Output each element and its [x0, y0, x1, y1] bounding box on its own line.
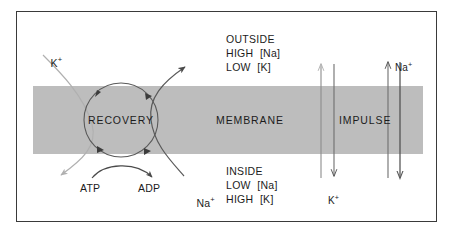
outside-heading: OUTSIDE — [226, 33, 275, 46]
sodium-ion-label-pump: Na+ — [184, 182, 215, 224]
atp-label: ATP — [80, 182, 100, 195]
recovery-label: RECOVERY — [88, 114, 154, 127]
recovery-arrowhead-right-bottom — [144, 148, 151, 155]
inside-potassium-concentration: HIGH [K] — [226, 193, 274, 206]
sodium-ion-label-impulse: Na+ — [383, 47, 412, 88]
inside-heading: INSIDE — [226, 165, 263, 178]
outside-sodium-concentration: HIGH [Na] — [226, 47, 280, 60]
membrane-label: MEMBRANE — [216, 114, 284, 127]
potassium-ion-charge-impulse: + — [335, 193, 339, 202]
adp-label: ADP — [138, 182, 160, 195]
potassium-ion-charge: + — [58, 55, 62, 64]
potassium-ion-symbol-impulse: K — [328, 195, 335, 206]
potassium-ion-symbol: K — [50, 57, 57, 69]
sodium-ion-symbol-pump: Na — [196, 197, 210, 209]
potassium-ion-label-impulse: K+ — [316, 180, 339, 221]
outside-potassium-concentration: LOW [K] — [226, 61, 271, 74]
diagram-canvas: K+ RECOVERY MEMBRANE IMPULSE OUTSIDE HIG… — [0, 0, 455, 242]
sodium-ion-charge-pump: + — [210, 195, 214, 204]
sodium-efflux-curve — [151, 67, 185, 176]
impulse-label: IMPULSE — [339, 114, 391, 127]
sodium-ion-charge-impulse: + — [408, 60, 412, 69]
atp-adp-arrow — [92, 166, 152, 178]
sodium-ion-symbol-impulse: Na — [395, 62, 408, 73]
potassium-ion-label-left: K+ — [38, 42, 62, 84]
inside-sodium-concentration: LOW [Na] — [226, 179, 278, 192]
